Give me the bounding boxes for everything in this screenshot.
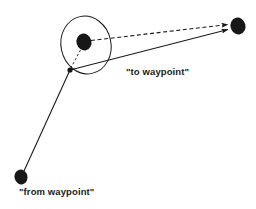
diagram-canvas: [0, 0, 256, 209]
from-waypoint-leg: [24, 70, 70, 171]
to-waypoint-label: "to waypoint": [126, 66, 189, 77]
course-line: [70, 30, 228, 71]
to-waypoint-node: [229, 16, 248, 36]
track-junction-node: [67, 67, 72, 72]
from-waypoint-node: [13, 168, 29, 186]
waypoint-diagram: "to waypoint" "from waypoint": [0, 0, 256, 209]
bearing-line: [91, 25, 228, 41]
from-waypoint-label: "from waypoint": [19, 186, 94, 197]
cross-track-line: [71, 50, 81, 69]
current-position-node: [75, 32, 94, 52]
